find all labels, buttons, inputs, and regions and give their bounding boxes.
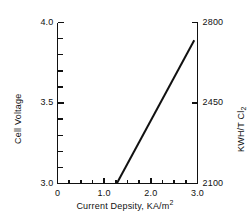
y-axis-right-title-text: KWH/T Cl [236, 111, 246, 152]
chart-figure: 4.0 3.5 3.0 2800 2450 2100 0 1.0 2.0 3.0… [0, 0, 250, 218]
x-axis-title: Current Depsity, KA/m2 [0, 201, 250, 211]
y-axis-left-title: Cell Voltage [13, 94, 23, 144]
data-line [117, 40, 194, 183]
x-tick-label: 0 [38, 188, 78, 198]
x-axis-title-superscript: 2 [169, 199, 173, 206]
y-right-tick-label: 2100 [203, 178, 224, 188]
y-axis-right-title: KWH/T Cl2 [236, 106, 246, 152]
y-right-tick-label: 2450 [203, 97, 224, 107]
x-tick-label: 1.0 [84, 188, 124, 198]
x-tick-label: 3.0 [178, 188, 218, 198]
y-right-tick-label: 2800 [203, 17, 224, 27]
data-series-group [117, 40, 194, 183]
y-left-tick-label: 4.0 [24, 17, 54, 27]
y-left-tick-label: 3.0 [24, 178, 54, 188]
axes-group [58, 23, 198, 184]
x-axis-title-text: Current Depsity, KA/m [76, 201, 169, 211]
y-left-tick-label: 3.5 [24, 97, 54, 107]
x-tick-label: 2.0 [131, 188, 171, 198]
y-axis-right-title-subscript: 2 [240, 106, 247, 110]
